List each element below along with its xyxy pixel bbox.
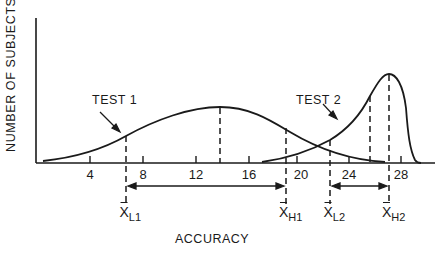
- x-tick-label-24: 24: [342, 167, 356, 182]
- range-arrow-test1: [128, 183, 284, 189]
- test2-label: TEST 2: [296, 93, 341, 107]
- test1-label: TEST 1: [92, 93, 137, 107]
- dashed-markers: [126, 75, 389, 204]
- marker-xl2: XL2: [324, 204, 346, 223]
- marker-xh2: XH2: [382, 204, 405, 223]
- x-tick-label-16: 16: [242, 167, 256, 182]
- x-tick-label-4: 4: [86, 167, 93, 182]
- x-tick-label-28: 28: [394, 167, 408, 182]
- x-tick-label-20: 20: [294, 167, 308, 182]
- x-tick-label-8: 8: [139, 167, 146, 182]
- test1-leader: [100, 112, 120, 132]
- range-arrow-test2: [332, 183, 387, 189]
- marker-xl1: XL1: [120, 204, 142, 223]
- y-axis-label: NUMBER OF SUBJECTS: [4, 22, 18, 152]
- x-tick-label-12: 12: [189, 167, 203, 182]
- chart-canvas: [0, 0, 445, 256]
- x-axis-label: ACCURACY: [175, 232, 249, 246]
- marker-xh1: XH1: [279, 204, 302, 223]
